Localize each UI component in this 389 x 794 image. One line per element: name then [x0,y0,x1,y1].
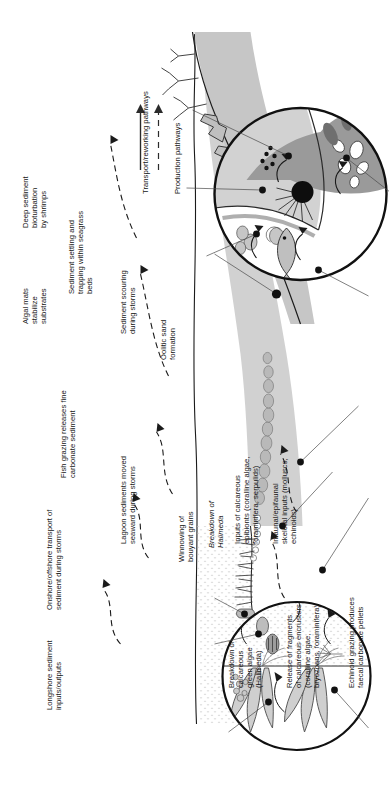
label-infaunal-skeletal: Infaunal/epifaunal skeletal inputs (moll… [270,422,297,544]
label-release-fragments: Release of fragments of calcareous encru… [284,558,320,688]
legend-transport-label: Transport/reworking pathways [140,24,149,194]
label-algal-mats: Algal mats stabilize substrates [20,252,47,324]
rotated-figure-wrapper: Longshore sediment inputs/outputs Onshor… [0,0,389,794]
label-winnowing: Winnowing of bouyant grains [176,476,194,562]
label-onshore-offshore: Onshore/offshore transport of sediment d… [44,460,62,610]
legend-production-label: Production pathways [172,24,181,194]
label-oolitic: Oolitic sand formation [158,282,176,360]
label-sediment-scouring: Sediment scouring during storms [118,228,136,334]
label-lagoon-seaward: Lagoon sediments moved seaward during st… [118,422,136,544]
label-echinoid-grazing: Echinoid grazing produces faecal carbona… [346,554,364,688]
reef-sediment-diagram: Longshore sediment inputs/outputs Onshor… [0,0,389,794]
label-inputs-epibionts: Inputs of calcareous epibionts (corallin… [232,418,259,544]
label-deep-bioturbation: Deep sediment bioturbation by shrimps [20,132,47,228]
sea-surface-line [193,34,196,724]
label-breakdown-green-algae: Breakdown of calcareous green algae (Hal… [226,604,262,688]
label-breakdown-halimeda: Breakdown of Halimeda [206,478,224,548]
label-sediment-settling: Sediment settling and trapping within se… [66,170,93,294]
label-longshore: Longshore sediment inputs/outputs [44,598,62,710]
label-fish-grazing: Fish grazing releases fine carbonate sed… [58,354,76,478]
